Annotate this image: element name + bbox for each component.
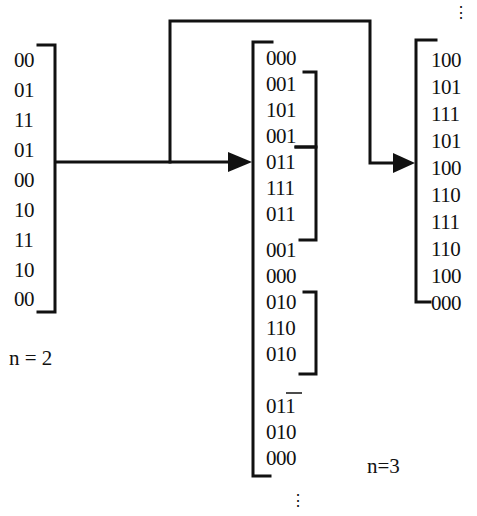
- middle-row: 001: [266, 126, 296, 147]
- right-row: 101: [431, 77, 461, 98]
- middle-row: 011: [266, 152, 295, 173]
- right-row: 000: [431, 293, 461, 314]
- middle-row: 010: [266, 422, 296, 443]
- arrowhead-right: [393, 153, 415, 173]
- middle-row: 010: [266, 292, 296, 313]
- sub-bracket-1: [296, 72, 316, 147]
- right-row: 100: [431, 50, 461, 71]
- right-row: 110: [431, 239, 460, 260]
- middle-row: 001: [266, 74, 296, 95]
- left-row: 01: [14, 80, 34, 101]
- middle-row: 101: [266, 100, 296, 121]
- middle-row: 011: [266, 204, 295, 225]
- sub-bracket-2: [296, 147, 316, 240]
- middle-row: 000: [266, 448, 296, 469]
- middle-row: 001: [266, 240, 296, 261]
- right-row: 111: [431, 212, 459, 233]
- left-row: 10: [14, 200, 34, 221]
- right-row: 111: [431, 104, 459, 125]
- left-row: 00: [14, 50, 34, 71]
- middle-row: 000: [266, 48, 296, 69]
- left-row: 11: [14, 110, 33, 131]
- left-bracket: [38, 45, 55, 312]
- middle-row: 010: [266, 344, 296, 365]
- middle-row: 011: [266, 396, 295, 417]
- middle-row: 110: [266, 318, 295, 339]
- sub-bracket-3: [300, 292, 316, 374]
- middle-column-label: n=3: [367, 456, 400, 477]
- right-row: 100: [431, 266, 461, 287]
- left-row: 11: [14, 230, 33, 251]
- left-column-label: n = 2: [9, 348, 52, 369]
- middle-continuation-icon: ⋮: [290, 490, 306, 511]
- left-row: 00: [14, 289, 34, 310]
- left-row: 01: [14, 140, 34, 161]
- middle-row: 111: [266, 178, 294, 199]
- right-row: 101: [431, 131, 461, 152]
- right-row: 110: [431, 185, 460, 206]
- right-continuation-icon: ⋮: [453, 2, 469, 23]
- right-row: 100: [431, 158, 461, 179]
- left-row: 10: [14, 260, 34, 281]
- connector-lines: [0, 0, 477, 516]
- middle-row: 000: [266, 266, 296, 287]
- left-row: 00: [14, 170, 34, 191]
- arrowhead-middle: [228, 152, 252, 172]
